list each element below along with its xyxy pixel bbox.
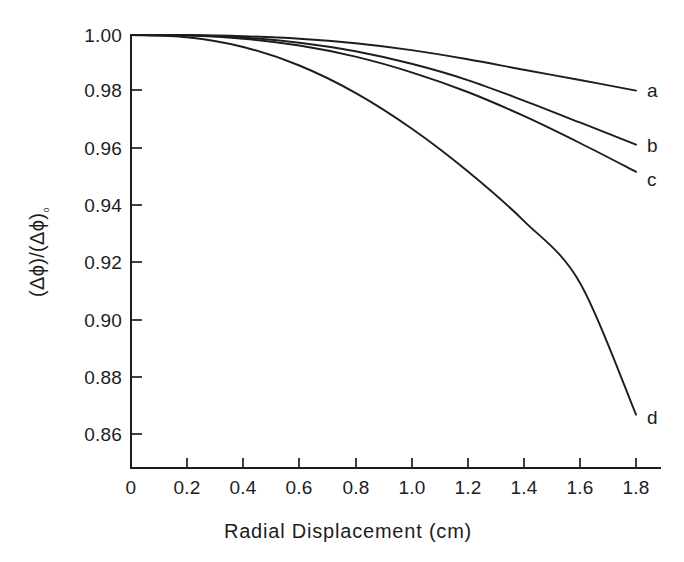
x-tick-label: 1.8: [622, 477, 649, 498]
curve-d: [131, 35, 636, 415]
x-axis-ticks: [131, 458, 636, 468]
x-tick-label: 1.0: [398, 477, 425, 498]
x-tick-label: 0.4: [229, 477, 256, 498]
y-axis-ticks: [131, 35, 142, 434]
curve-label-a: a: [647, 80, 658, 101]
y-tick-label: 0.96: [84, 138, 122, 159]
line-chart: 1.00 0.98 0.96 0.94 0.92 0.90 0.88 0.86 …: [0, 0, 684, 562]
svg-text:(Δϕ)/(Δϕ)₀: (Δϕ)/(Δϕ)₀: [26, 207, 51, 297]
data-curves: [131, 35, 636, 415]
x-tick-label: 0.6: [285, 477, 312, 498]
y-axis-title-subscript: ₀: [36, 207, 51, 213]
y-tick-label: 0.88: [84, 367, 122, 388]
y-tick-label: 0.90: [84, 310, 122, 331]
x-axis-tick-labels: 0 0.2 0.4 0.6 0.8 1.0 1.2 1.4 1.6 1.8: [126, 477, 650, 498]
figure-container: 1.00 0.98 0.96 0.94 0.92 0.90 0.88 0.86 …: [0, 0, 684, 562]
x-tick-label: 0.2: [173, 477, 200, 498]
curve-c: [131, 35, 636, 172]
y-tick-label: 0.86: [84, 424, 122, 445]
y-tick-label: 0.98: [84, 80, 122, 101]
y-axis-title: (Δϕ)/(Δϕ)₀: [26, 207, 51, 297]
x-axis-title: Radial Displacement (cm): [224, 520, 472, 542]
x-tick-label: 0.8: [342, 477, 369, 498]
x-tick-label: 0: [126, 477, 137, 498]
y-tick-label: 1.00: [84, 25, 122, 46]
y-tick-label: 0.94: [84, 195, 122, 216]
x-tick-label: 1.4: [510, 477, 537, 498]
curve-a: [131, 35, 636, 91]
curve-label-b: b: [647, 135, 658, 156]
curve-label-c: c: [647, 169, 657, 190]
y-axis-title-denominator: (Δϕ): [26, 213, 48, 252]
curve-b: [131, 35, 636, 145]
y-axis-title-numerator: (Δϕ): [26, 258, 48, 297]
curve-labels: a b c d: [647, 80, 658, 428]
y-axis-tick-labels: 1.00 0.98 0.96 0.94 0.92 0.90 0.88 0.86: [84, 25, 122, 445]
axis-spines: [131, 35, 660, 468]
y-tick-label: 0.92: [84, 252, 122, 273]
x-tick-label: 1.2: [454, 477, 481, 498]
curve-label-d: d: [647, 407, 658, 428]
x-tick-label: 1.6: [566, 477, 593, 498]
